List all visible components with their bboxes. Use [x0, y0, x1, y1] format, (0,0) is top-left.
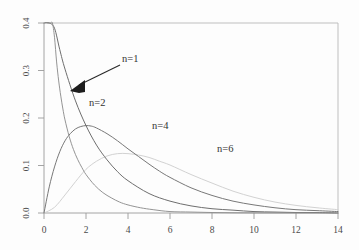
n1-annotation-arrow — [70, 65, 120, 93]
curve-label-n4: n=4 — [152, 120, 169, 131]
x-tick-label-14: 14 — [333, 225, 343, 235]
n1-arrow-shaft — [79, 65, 120, 85]
x-tick-label-12: 12 — [291, 225, 301, 235]
curve-n2 — [44, 23, 338, 213]
curve-label-n1: n=1 — [122, 53, 138, 64]
x-tick-label-8: 8 — [210, 225, 215, 235]
curve-label-n6: n=6 — [217, 143, 233, 154]
y-tick-label-0.1: 0.1 — [21, 160, 31, 171]
curve-n6 — [44, 153, 338, 213]
curve-n4 — [44, 126, 338, 213]
x-tick-label-2: 2 — [84, 225, 89, 235]
chart-plot-area: 0.4 0.3 0.2 0.1 0.0 0 2 4 6 8 10 12 14 — [0, 0, 359, 250]
curve-labels: n=1 n=2 n=4 n=6 — [89, 53, 233, 154]
y-axis: 0.4 0.3 0.2 0.1 0.0 — [21, 17, 44, 219]
y-tick-label-0.0: 0.0 — [21, 207, 31, 219]
y-tick-label-0.3: 0.3 — [21, 64, 31, 76]
y-tick-label-0.2: 0.2 — [21, 112, 31, 123]
curve-n1 — [47, 22, 338, 213]
y-tick-label-0.4: 0.4 — [21, 17, 31, 29]
x-axis: 0 2 4 6 8 10 12 14 — [42, 213, 343, 235]
plot-frame — [44, 23, 338, 213]
x-tick-label-10: 10 — [249, 225, 259, 235]
x-tick-label-0: 0 — [42, 225, 47, 235]
data-curves — [44, 22, 338, 213]
x-tick-label-4: 4 — [126, 225, 131, 235]
x-tick-label-6: 6 — [168, 225, 173, 235]
chart-figure: 0.4 0.3 0.2 0.1 0.0 0 2 4 6 8 10 12 14 — [0, 0, 359, 250]
curve-label-n2: n=2 — [89, 97, 105, 108]
n1-arrow-head — [70, 80, 85, 93]
